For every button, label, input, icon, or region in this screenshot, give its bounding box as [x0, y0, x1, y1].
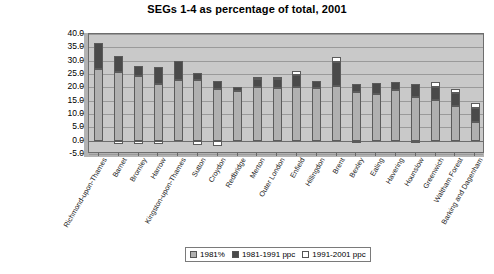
gridline	[89, 154, 483, 155]
bar-segment-1981[interactable]	[431, 100, 440, 141]
bar-group[interactable]	[431, 34, 440, 152]
bar-segment-1981-1991[interactable]	[431, 87, 440, 101]
bar-group[interactable]	[94, 34, 103, 152]
bar-segment-1991-2001[interactable]	[154, 141, 163, 145]
x-tick-mark	[375, 153, 376, 156]
bar-segment-1991-2001[interactable]	[332, 57, 341, 62]
legend-item-1981-1991: 1981-1991 ppc	[232, 250, 295, 259]
bar-group[interactable]	[451, 34, 460, 152]
y-tick-mark	[80, 60, 84, 61]
y-tick-label: 35.0	[50, 41, 84, 51]
bar-segment-1981-1991[interactable]	[352, 84, 361, 92]
y-tick-label: 20.0	[50, 81, 84, 91]
bar-segment-1981-1991[interactable]	[332, 62, 341, 85]
y-tick-label: 10.0	[50, 108, 84, 118]
bar-group[interactable]	[114, 34, 123, 152]
bar-group[interactable]	[273, 34, 282, 152]
bar-group[interactable]	[411, 34, 420, 152]
x-tick-mark	[237, 153, 238, 156]
bar-segment-1981[interactable]	[94, 69, 103, 140]
bar-group[interactable]	[174, 34, 183, 152]
bar-segment-1991-2001[interactable]	[213, 141, 222, 147]
bar-segment-1991-2001[interactable]	[451, 89, 460, 93]
bar-segment-1981-1991[interactable]	[372, 83, 381, 94]
bar-segment-1991-2001[interactable]	[431, 82, 440, 87]
legend-item-1991-2001: 1991-2001 ppc	[302, 250, 365, 259]
bar-segment-1981-1991[interactable]	[213, 81, 222, 89]
bar-segment-1981[interactable]	[352, 92, 361, 140]
bar-group[interactable]	[352, 34, 361, 152]
bar-segment-1981[interactable]	[471, 122, 480, 140]
bar-segment-1981-1991[interactable]	[391, 82, 400, 90]
bar-segment-1981[interactable]	[273, 88, 282, 141]
bar-group[interactable]	[332, 34, 341, 152]
bar-segment-1981-1991[interactable]	[174, 61, 183, 79]
bar-segment-1991-2001[interactable]	[292, 71, 301, 75]
bar-segment-1981[interactable]	[312, 88, 321, 141]
x-axis-label: Ealing	[368, 156, 386, 178]
bar-segment-1981[interactable]	[193, 80, 202, 140]
x-tick-mark	[177, 153, 178, 156]
x-axis-label: Richmond-upon-Thames	[61, 156, 108, 229]
bar-segment-1981[interactable]	[372, 94, 381, 141]
bar-group[interactable]	[154, 34, 163, 152]
bar-segment-1981[interactable]	[174, 80, 183, 141]
bar-segment-1981[interactable]	[213, 89, 222, 140]
legend-label-1991-2001: 1991-2001 ppc	[312, 250, 365, 259]
bar-segment-1991-2001[interactable]	[411, 141, 420, 144]
bar-segment-1981-1991[interactable]	[114, 56, 123, 72]
bar-segment-1981-1991[interactable]	[471, 108, 480, 123]
bar-segment-1991-2001[interactable]	[193, 141, 202, 145]
bar-segment-1991-2001[interactable]	[471, 103, 480, 108]
x-tick-mark	[316, 153, 317, 156]
bar-segment-1981[interactable]	[134, 76, 143, 141]
bar-segment-1981-1991[interactable]	[233, 87, 242, 92]
bar-group[interactable]	[292, 34, 301, 152]
x-axis-label: Bromley	[127, 156, 148, 183]
bar-group[interactable]	[391, 34, 400, 152]
bar-group[interactable]	[372, 34, 381, 152]
bar-segment-1991-2001[interactable]	[114, 141, 123, 144]
bar-segment-1991-2001[interactable]	[253, 77, 262, 79]
bar-segment-1981-1991[interactable]	[312, 81, 321, 87]
bar-segment-1981[interactable]	[114, 72, 123, 140]
white-swatch-icon	[302, 251, 309, 258]
bar-segment-1981-1991[interactable]	[193, 73, 202, 81]
x-tick-mark	[454, 153, 455, 156]
y-tick-mark	[80, 126, 84, 127]
bar-segment-1981-1991[interactable]	[154, 67, 163, 84]
bar-group[interactable]	[233, 34, 242, 152]
bar-segment-1981[interactable]	[233, 91, 242, 140]
x-tick-mark	[197, 153, 198, 156]
y-tick-mark	[80, 46, 84, 47]
bar-segment-1981[interactable]	[253, 87, 262, 141]
x-axis-label: Barnet	[110, 156, 128, 179]
bar-group[interactable]	[312, 34, 321, 152]
bar-segment-1981[interactable]	[391, 90, 400, 141]
bar-group[interactable]	[134, 34, 143, 152]
x-axis-label: Harrow	[149, 156, 168, 181]
y-tick-label: 5.0	[50, 121, 84, 131]
bar-group[interactable]	[213, 34, 222, 152]
bar-segment-1981[interactable]	[451, 106, 460, 141]
bar-group[interactable]	[253, 34, 262, 152]
bar-segment-1981[interactable]	[332, 86, 341, 141]
y-tick-label: 40.0	[50, 28, 84, 38]
bar-segment-1981-1991[interactable]	[273, 79, 282, 88]
bar-group[interactable]	[471, 34, 480, 152]
bar-segment-1991-2001[interactable]	[134, 141, 143, 144]
bar-segment-1991-2001[interactable]	[273, 77, 282, 79]
chart-legend: 1981% 1981-1991 ppc 1991-2001 ppc	[185, 247, 371, 262]
bar-group[interactable]	[193, 34, 202, 152]
bar-segment-1981-1991[interactable]	[134, 66, 143, 76]
bar-segment-1981[interactable]	[411, 97, 420, 141]
bar-segment-1981[interactable]	[292, 87, 301, 141]
bar-segment-1991-2001[interactable]	[352, 141, 361, 143]
bar-segment-1981-1991[interactable]	[253, 79, 262, 87]
bar-segment-1981-1991[interactable]	[451, 93, 460, 105]
bar-segment-1981-1991[interactable]	[292, 75, 301, 87]
bar-segment-1981-1991[interactable]	[411, 84, 420, 97]
x-axis-label: Brent	[330, 156, 346, 175]
bar-segment-1981[interactable]	[154, 84, 163, 141]
bar-segment-1981-1991[interactable]	[94, 43, 103, 69]
